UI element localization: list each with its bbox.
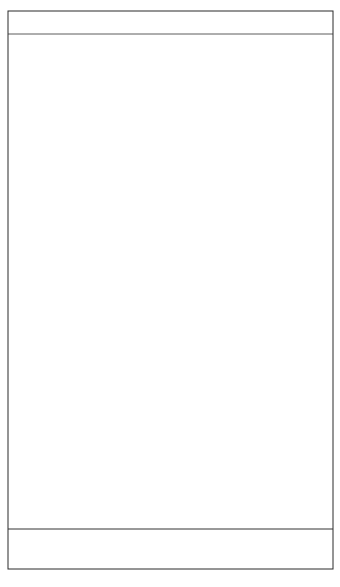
spectrum-chart [0, 0, 340, 587]
plot-frame [8, 11, 333, 569]
